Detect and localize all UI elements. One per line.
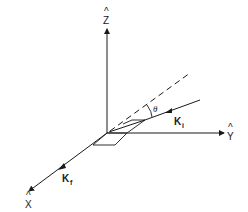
kf-label: K <box>62 173 70 184</box>
ki-arrowhead <box>165 108 172 113</box>
theta-arc <box>147 105 152 117</box>
scattering-diagram: ^ Z ^ Y ^ X θ K i K f <box>0 0 248 212</box>
ki-subscript: i <box>182 122 184 129</box>
theta-label: θ <box>153 104 158 114</box>
z-axis-label: Z <box>103 15 109 26</box>
y-axis-label: Y <box>227 131 234 142</box>
projection-line <box>127 120 145 133</box>
x-axis-label: X <box>25 199 32 210</box>
kf-subscript: f <box>70 179 73 186</box>
ki-label: K <box>174 116 182 127</box>
